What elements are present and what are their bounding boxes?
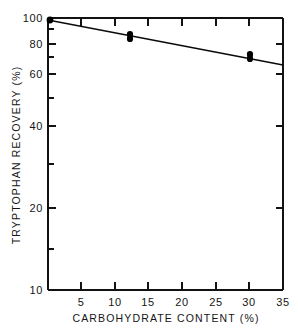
y-tick-label-20: 20 (30, 202, 43, 214)
x-tick-label-20: 20 (175, 296, 188, 308)
x-tick-label-15: 15 (141, 296, 154, 308)
data-point-overlap-bridge (127, 33, 133, 40)
x-tick-label-10: 10 (108, 296, 121, 308)
x-tick-label-30: 30 (242, 296, 255, 308)
tryptophan-recovery-scatter-plot: 100 80 60 40 20 10 5 10 15 20 25 30 35 C… (0, 0, 298, 336)
y-tick-label-40: 40 (30, 120, 43, 132)
y-axis-title: TRYPTOPHAN RECOVERY (%) (10, 66, 22, 245)
x-tick-label-5: 5 (78, 296, 85, 308)
chart-figure: 100 80 60 40 20 10 5 10 15 20 25 30 35 C… (0, 0, 298, 336)
y-tick-label-80: 80 (30, 38, 43, 50)
y-tick-label-10: 10 (30, 284, 43, 296)
x-axis-title: CARBOHYDRATE CONTENT (%) (72, 312, 259, 324)
x-tick-label-35: 35 (276, 296, 289, 308)
x-tick-label-25: 25 (209, 296, 222, 308)
data-point (47, 17, 54, 24)
data-point-overlap-bridge (247, 53, 253, 60)
plot-background (0, 0, 298, 336)
y-tick-label-60: 60 (30, 68, 43, 80)
y-tick-label-100: 100 (23, 12, 43, 24)
